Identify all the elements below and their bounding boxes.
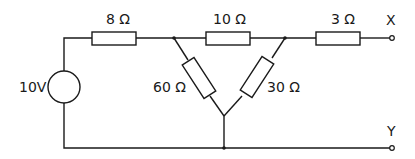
junction-dot	[222, 146, 226, 150]
circuit-diagram: 10V 8 Ω 10 Ω 3 Ω 60 Ω 30 Ω X Y	[0, 0, 415, 159]
resistor-10-ohm	[206, 32, 250, 45]
terminal-y	[390, 146, 395, 151]
resistor-3-ohm-label: 3 Ω	[331, 11, 355, 27]
resistor-10-ohm-label: 10 Ω	[213, 11, 246, 27]
resistor-8-ohm	[92, 32, 136, 45]
terminal-x	[390, 36, 395, 41]
wires	[64, 38, 390, 148]
resistor-8-ohm-label: 8 Ω	[106, 11, 130, 27]
terminal-x-label: X	[386, 12, 396, 28]
terminal-y-label: Y	[386, 123, 396, 139]
resistor-60-ohm	[182, 57, 216, 98]
junction-dot	[172, 36, 176, 40]
resistor-60-ohm-label: 60 Ω	[153, 79, 186, 95]
source-label: 10V	[19, 79, 47, 95]
voltage-source-icon	[48, 71, 80, 103]
junction-dot	[283, 36, 287, 40]
resistor-30-ohm-label: 30 Ω	[267, 79, 300, 95]
resistor-3-ohm	[316, 32, 360, 45]
